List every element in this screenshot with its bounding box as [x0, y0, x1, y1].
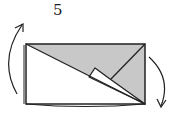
turn-over-arrow-right-icon [149, 57, 166, 107]
turn-over-arrow-left-icon [9, 24, 23, 94]
origami-diagram [0, 0, 169, 126]
